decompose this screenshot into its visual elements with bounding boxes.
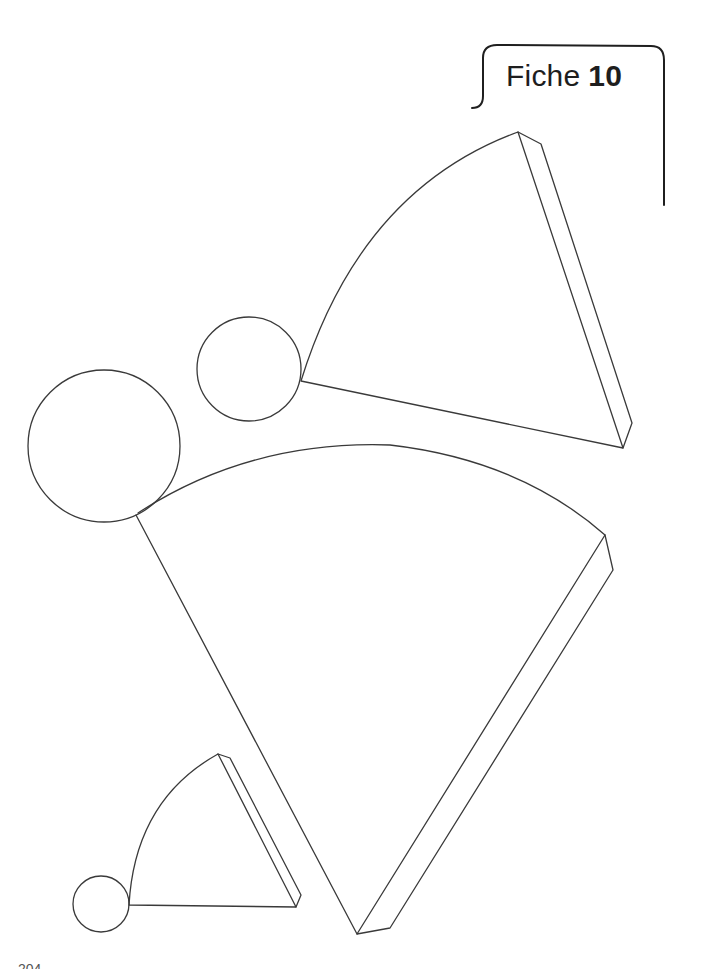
fiche-word: Fiche xyxy=(506,59,580,92)
glue-tab xyxy=(357,535,613,934)
fiche-number: 10 xyxy=(588,59,622,92)
fiche-title: Fiche10 xyxy=(506,59,622,93)
worksheet-drawing xyxy=(0,0,701,969)
cone-base-circle xyxy=(28,370,180,522)
cone-base-circle xyxy=(197,317,301,421)
cone-net-small xyxy=(73,754,301,932)
cone-base-circle xyxy=(73,876,129,932)
cone-net-large xyxy=(28,370,613,934)
cone-net-medium xyxy=(197,132,632,448)
cone-sector xyxy=(301,132,623,448)
glue-tab xyxy=(518,132,632,448)
page-number: 204 xyxy=(18,962,41,969)
glue-tab xyxy=(218,754,301,907)
cone-sector xyxy=(136,445,605,934)
cone-sector xyxy=(129,754,296,907)
